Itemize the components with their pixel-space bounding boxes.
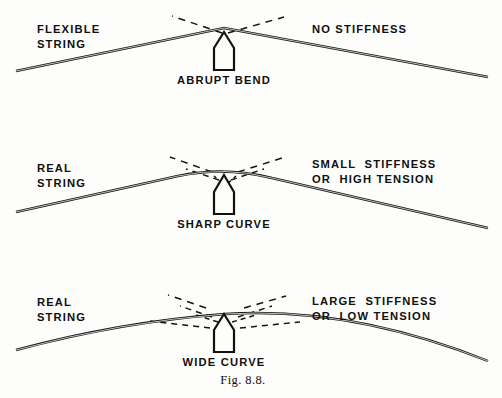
- panel-flexible-string: FLEXIBLE STRING NO STIFFNESS ABRUPT BEND: [16, 16, 488, 86]
- panel-real-string-high-tension: REAL STRING SMALL STIFFNESS OR HIGH TENS…: [16, 157, 488, 230]
- panel3-left-label-line2: STRING: [37, 311, 86, 323]
- panel2-right-label-line2: OR HIGH TENSION: [312, 173, 434, 185]
- panel3-right-label-line1: LARGE STIFFNESS: [312, 295, 437, 307]
- string-flexible: [16, 28, 488, 77]
- panel3-left-label-line1: REAL: [37, 296, 72, 308]
- pointer-arrow-panel2: [214, 175, 234, 214]
- pointer-arrow-panel1: [214, 32, 234, 70]
- figure-container: FLEXIBLE STRING NO STIFFNESS ABRUPT BEND: [0, 0, 502, 398]
- panel-real-string-low-tension: REAL STRING LARGE STIFFNESS OR LOW TENSI…: [16, 295, 488, 368]
- figure-canvas: FLEXIBLE STRING NO STIFFNESS ABRUPT BEND: [0, 0, 502, 398]
- tangent-rays-panel1: [172, 16, 284, 33]
- figure-caption: Fig. 8.8.: [220, 373, 265, 387]
- panel1-left-label-line1: FLEXIBLE: [37, 23, 100, 35]
- panel2-callout-label: SHARP CURVE: [177, 218, 271, 230]
- pointer-arrow-panel3: [214, 314, 234, 352]
- panel1-left-label-line2: STRING: [37, 38, 86, 50]
- panel1-callout-label: ABRUPT BEND: [177, 74, 271, 86]
- panel1-right-label-line1: NO STIFFNESS: [312, 23, 407, 35]
- panel2-right-label-line1: SMALL STIFFNESS: [312, 158, 436, 170]
- panel3-callout-label: WIDE CURVE: [183, 356, 266, 368]
- panel2-left-label-line1: REAL: [37, 162, 72, 174]
- panel2-left-label-line2: STRING: [37, 177, 86, 189]
- panel3-right-label-line2: OR LOW TENSION: [312, 310, 431, 322]
